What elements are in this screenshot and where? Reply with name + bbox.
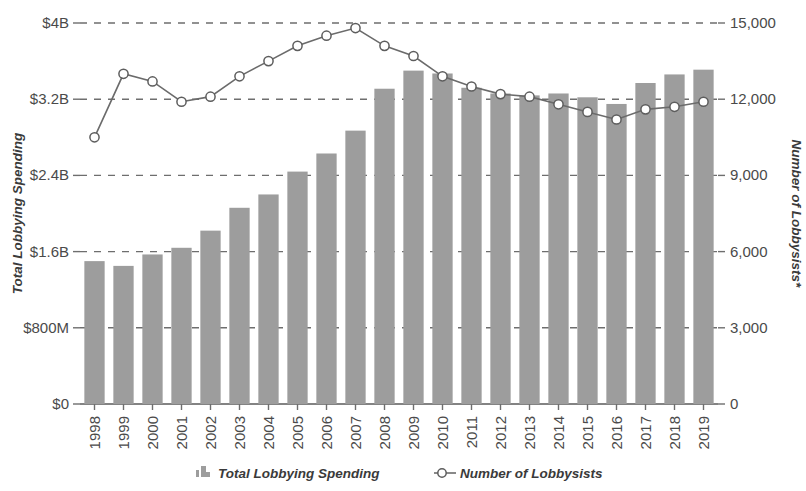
- legend-bar-swatch-part-2: [206, 472, 210, 477]
- lobbyists-marker-2013: [525, 92, 534, 101]
- xtick-label-2007: 2007: [347, 416, 364, 449]
- xtick-label-2000: 2000: [144, 416, 161, 449]
- bar-2003: [229, 208, 249, 404]
- xtick-label-2011: 2011: [463, 416, 480, 448]
- lobbyists-marker-2008: [380, 41, 389, 50]
- xtick-label-2018: 2018: [666, 416, 683, 449]
- xtick-label-2009: 2009: [405, 416, 422, 449]
- lobbyists-marker-2014: [554, 100, 563, 109]
- lobbyists-marker-1998: [90, 133, 99, 142]
- lobbyists-marker-2010: [438, 72, 447, 81]
- xtick-label-2015: 2015: [579, 416, 596, 449]
- ytick-label-right-1: 3,000: [730, 319, 768, 336]
- bar-2017: [635, 83, 655, 404]
- bar-2001: [171, 248, 191, 404]
- bar-1999: [113, 266, 133, 404]
- bar-2016: [606, 104, 626, 404]
- bar-2012: [490, 93, 510, 404]
- bar-2015: [577, 97, 597, 404]
- xtick-label-2010: 2010: [434, 416, 451, 449]
- xtick-label-2013: 2013: [521, 416, 538, 449]
- ytick-label-left-5: $4B: [42, 14, 69, 31]
- chart-canvas: $0$800M$1.6B$2.4B$3.2B$4B03,0006,0009,00…: [0, 0, 806, 491]
- lobbyists-marker-2015: [583, 107, 592, 116]
- bar-2006: [316, 153, 336, 404]
- xtick-label-2004: 2004: [260, 416, 277, 449]
- bar-2014: [548, 93, 568, 404]
- ytick-label-right-5: 15,000: [730, 14, 776, 31]
- ytick-label-left-4: $3.2B: [30, 90, 69, 107]
- legend-label-lobbyists: Number of Lobbysists: [460, 466, 603, 481]
- lobbyists-marker-2006: [322, 31, 331, 40]
- ytick-label-left-0: $0: [52, 395, 69, 412]
- xtick-label-1999: 1999: [115, 416, 132, 449]
- bar-2010: [432, 73, 452, 404]
- lobbyists-marker-2016: [612, 115, 621, 124]
- bar-2018: [664, 74, 684, 404]
- bar-2000: [142, 254, 162, 404]
- bar-2005: [287, 172, 307, 404]
- ytick-label-right-0: 0: [730, 395, 738, 412]
- ytick-label-right-4: 12,000: [730, 90, 776, 107]
- ytick-label-left-1: $800M: [23, 319, 69, 336]
- xtick-label-2008: 2008: [376, 416, 393, 449]
- ytick-label-left-2: $1.6B: [30, 243, 69, 260]
- lobbyists-marker-2007: [351, 23, 360, 32]
- xtick-label-2003: 2003: [231, 416, 248, 449]
- bar-2019: [693, 70, 713, 404]
- lobbyists-marker-2000: [148, 77, 157, 86]
- xtick-label-2005: 2005: [289, 416, 306, 449]
- xtick-label-2012: 2012: [492, 416, 509, 449]
- bar-2011: [461, 88, 481, 404]
- xtick-label-2017: 2017: [637, 416, 654, 449]
- ytick-label-left-3: $2.4B: [30, 166, 69, 183]
- lobbyists-marker-2003: [235, 72, 244, 81]
- legend-bar-swatch-part-0: [196, 470, 199, 477]
- bar-2013: [519, 95, 539, 404]
- bar-2002: [200, 231, 220, 404]
- xtick-label-2016: 2016: [608, 416, 625, 449]
- ytick-label-right-3: 9,000: [730, 166, 768, 183]
- y-axis-title-right: Number of Lobbysists*: [789, 140, 804, 289]
- lobbyists-marker-2002: [206, 92, 215, 101]
- bar-2009: [403, 71, 423, 404]
- lobbying-chart: $0$800M$1.6B$2.4B$3.2B$4B03,0006,0009,00…: [0, 0, 806, 491]
- lobbyists-marker-2009: [409, 51, 418, 60]
- legend-bar-swatch-part-1: [201, 466, 206, 477]
- lobbyists-marker-2017: [641, 105, 650, 114]
- xtick-label-2002: 2002: [202, 416, 219, 449]
- legend-label-spending: Total Lobbying Spending: [218, 466, 380, 481]
- lobbyists-marker-2004: [264, 57, 273, 66]
- lobbyists-marker-2018: [670, 102, 679, 111]
- xtick-label-2014: 2014: [550, 416, 567, 449]
- xtick-label-2019: 2019: [695, 416, 712, 449]
- lobbyists-marker-2005: [293, 41, 302, 50]
- legend-open-circle-marker-icon: [438, 469, 446, 477]
- xtick-label-2006: 2006: [318, 416, 335, 449]
- lobbyists-marker-2019: [699, 97, 708, 106]
- bar-1998: [84, 261, 104, 404]
- bar-2004: [258, 194, 278, 404]
- bar-2007: [345, 131, 365, 404]
- lobbyists-marker-2011: [467, 82, 476, 91]
- lobbyists-marker-2001: [177, 97, 186, 106]
- bar-2008: [374, 89, 394, 404]
- y-axis-title-left: Total Lobbying Spending: [10, 132, 25, 294]
- ytick-label-right-2: 6,000: [730, 243, 768, 260]
- xtick-label-1998: 1998: [86, 416, 103, 449]
- lobbyists-marker-2012: [496, 90, 505, 99]
- xtick-label-2001: 2001: [173, 416, 190, 449]
- lobbyists-marker-1999: [119, 69, 128, 78]
